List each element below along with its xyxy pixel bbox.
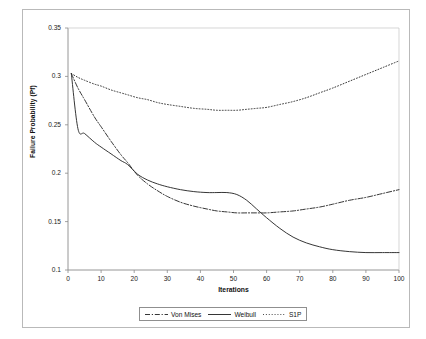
x-tick-label: 80 xyxy=(319,275,347,282)
legend-label: Von Mises xyxy=(171,311,201,318)
x-tick-label: 20 xyxy=(120,275,148,282)
y-tick-label: 0.3 xyxy=(27,72,61,79)
x-tick-label: 40 xyxy=(186,275,214,282)
legend-swatch-solid xyxy=(208,311,231,318)
y-tick-label: 0.25 xyxy=(27,121,61,128)
series-line-s1p xyxy=(71,61,399,110)
x-tick-label: 30 xyxy=(153,275,181,282)
legend-item-weibull: Weibull xyxy=(208,311,256,318)
legend-swatch-dash-dot xyxy=(145,311,168,318)
series-group xyxy=(71,61,399,253)
x-tick-label: 100 xyxy=(385,275,413,282)
y-tick-label: 0.2 xyxy=(27,169,61,176)
legend-swatch-dotted xyxy=(263,311,286,318)
x-tick-label: 60 xyxy=(253,275,281,282)
legend-item-von-mises: Von Mises xyxy=(145,311,201,318)
legend-label: S1P xyxy=(289,311,301,318)
y-tick-label: 0.35 xyxy=(27,24,61,31)
x-tick-label: 70 xyxy=(286,275,314,282)
chart-figure: Failure Probability (Pf) Iterations 0.10… xyxy=(0,0,426,339)
x-tick-label: 0 xyxy=(54,275,82,282)
series-line-von-mises xyxy=(71,74,399,213)
chart-legend: Von MisesWeibullS1P xyxy=(139,307,307,321)
series-line-weibull xyxy=(71,74,399,253)
x-axis-title: Iterations xyxy=(68,286,399,293)
x-tick-label: 90 xyxy=(352,275,380,282)
legend-item-s1p: S1P xyxy=(263,311,301,318)
x-tick-label: 50 xyxy=(220,275,248,282)
y-tick-label: 0.1 xyxy=(27,266,61,273)
axes-group xyxy=(65,28,399,273)
y-tick-label: 0.15 xyxy=(27,218,61,225)
x-tick-label: 10 xyxy=(87,275,115,282)
legend-label: Weibull xyxy=(234,311,256,318)
